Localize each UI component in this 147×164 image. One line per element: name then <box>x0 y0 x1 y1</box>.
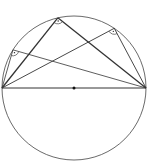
apex-top-left-chord <box>2 18 58 88</box>
apex-left-right-angle-dot <box>14 52 15 53</box>
apex-right-right-chord <box>114 28 146 88</box>
center-point <box>73 87 76 90</box>
thales-diagram <box>0 0 147 164</box>
apex-right-left-chord <box>2 28 114 88</box>
apex-top-right-angle-dot <box>57 20 58 21</box>
apex-top-right-chord <box>58 18 146 88</box>
apex-right-right-angle-dot <box>113 31 114 32</box>
apex-left-right-chord <box>13 50 146 88</box>
